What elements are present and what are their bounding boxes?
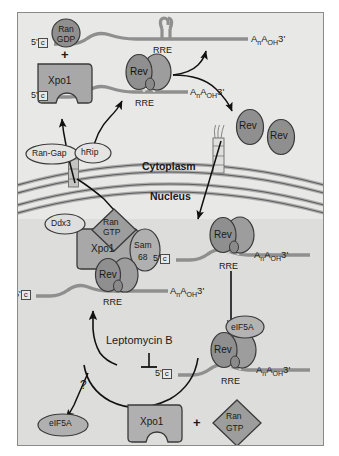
rev-label-export: Rev [99,270,117,280]
nucleus-label: Nucleus [150,191,191,202]
cap-box-eif5a: c [162,369,172,379]
xpo1-free-label: Xpo1 [140,417,163,427]
five-prime-eif5a: 5'c [155,369,172,379]
cap-box-nuc-right: c [160,254,170,264]
polya-nuc-right: AnAOH3' [254,250,288,262]
plus-sign-nuc: + [193,416,201,429]
ran-gtp-nuc-label-1: Ran [103,218,119,227]
question-mark-label: ? [80,379,87,391]
arrow-mrnp-to-rre [173,51,206,75]
cap-box-top: c [38,38,48,48]
rev-label-nuc-right: Rev [214,230,232,240]
cap-box-nuc-left: c [21,290,31,300]
cap-box-cyto: c [38,91,48,101]
rev-free-2-label: Rev [270,131,288,141]
figure-frame: Ran GDP + Xpo1 Ran-Gap hRip Cytoplasm Nu… [17,12,324,446]
cytoplasm-label: Cytoplasm [142,161,196,172]
figure-root: Ran GDP + Xpo1 Ran-Gap hRip Cytoplasm Nu… [0,0,339,456]
polya-top: AnAOH3' [251,34,285,46]
ran-gtp-free-label-2: GTP [226,424,243,433]
hrip-label: hRip [81,148,98,157]
sam68-label-2: 68 [138,253,147,262]
sam68-label-1: Sam [134,241,151,250]
polya-cyto: AnAOH3' [190,87,224,99]
plus-sign-cyto: + [61,48,69,61]
eif5a-free-label: eIF5A [49,419,72,428]
ran-gdp-label-line2: GDP [54,35,78,44]
rre-label-nuc-left: RRE [103,298,122,307]
polya-eif5a: AnAOH3' [256,365,290,377]
ran-gtp-nuc-label-2: GTP [103,228,120,237]
five-prime-nuc-right: 5'c [153,254,170,264]
eif5a-bound-label: eIF5A [231,323,254,332]
rev-free-1-label: Rev [239,121,257,131]
leptomycin-label: Leptomycin B [106,335,173,346]
five-prime-cyto: 5'c [31,91,48,101]
rre-label-nuc-right: RRE [219,262,238,271]
rev-label-cyto: Rev [130,67,148,77]
mrna-rre-top [54,18,248,44]
rre-label-eif5a: RRE [221,377,240,386]
ran-gdp-label-line1: Ran [54,25,78,34]
polya-nuc-left: AnAOH3' [170,286,204,298]
five-prime-nuc-left: 5'c [17,290,31,300]
rre-label-top: RRE [153,46,172,55]
rre-label-cyto: RRE [135,99,154,108]
five-prime-top: 5'c [31,38,48,48]
rev-label-eif5a: Rev [214,345,232,355]
ran-gtp-free-label-1: Ran [226,412,242,421]
ran-gap-label: Ran-Gap [32,149,67,158]
arrow-pore-into-nucleus [198,141,221,219]
xpo1-nucleus-label: Xpo1 [91,244,114,254]
ddx3-label: Ddx3 [51,219,71,228]
xpo1-cytoplasm-label: Xpo1 [48,76,71,86]
